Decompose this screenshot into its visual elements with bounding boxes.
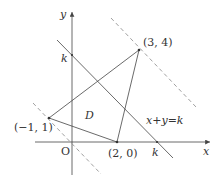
line-equation-label: x+y=k [146,114,184,127]
point-a-dot [48,117,51,120]
point-c-label: (3, 4) [143,36,173,49]
coordinate-diagram: y x O (3, 4) (−1, 1) (2, 0) D x+y=k k k [0,0,221,183]
y-axis-label: y [59,8,67,21]
point-b-label: (2, 0) [108,147,138,160]
origin-label: O [61,145,70,158]
diagram-canvas: y x O (3, 4) (−1, 1) (2, 0) D x+y=k k k [0,0,221,183]
x-axis-label: x [203,145,210,158]
point-b-dot [116,141,119,144]
point-c-dot [138,49,141,52]
k-x-axis-label: k [152,146,159,159]
k-y-intercept-dot [71,54,73,56]
region-d-label: D [84,109,94,122]
k-y-axis-label: k [61,52,68,65]
k-x-intercept-dot [156,141,158,143]
dashed-line-upper [111,18,196,107]
point-a-label: (−1, 1) [14,121,53,134]
